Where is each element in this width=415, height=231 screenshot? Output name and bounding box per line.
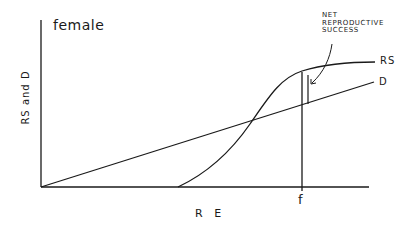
chart-canvas — [0, 0, 415, 231]
rs-series-label: RS — [380, 55, 395, 66]
y-axis-label: RS and D — [20, 70, 31, 124]
chart-title: female — [53, 17, 104, 33]
rs-curve — [178, 62, 375, 187]
f-tick-label: f — [298, 192, 304, 207]
d-series-label: D — [379, 76, 388, 87]
x-axis-label: R E — [195, 207, 225, 220]
annotation-line-3: SUCCESS — [322, 27, 384, 35]
net-success-annotation: NET REPRODUCTIVE SUCCESS — [322, 12, 384, 35]
d-line — [41, 82, 374, 187]
annotation-arrow — [312, 44, 332, 83]
